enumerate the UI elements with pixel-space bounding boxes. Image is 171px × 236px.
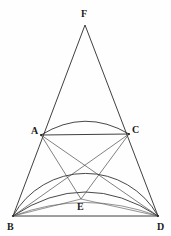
segment-FB — [13, 25, 85, 216]
semicircle-BD-arc — [13, 173, 158, 216]
segment-AD — [41, 135, 158, 216]
point-label-F: F — [81, 9, 87, 19]
vertex-dot-D — [157, 215, 159, 217]
geometry-diagram — [0, 0, 171, 236]
point-label-C: C — [132, 125, 139, 135]
segment-AE — [41, 135, 81, 199]
arc-BD-lower — [13, 203, 158, 217]
segment-CB — [13, 134, 129, 216]
arc-BD-upper — [13, 192, 158, 216]
point-label-E: E — [77, 202, 84, 212]
vertex-dot-A — [40, 134, 42, 136]
segment-ED — [81, 199, 158, 216]
point-label-A: A — [31, 126, 38, 136]
figure-canvas: F A C B D E — [0, 0, 171, 236]
point-label-D: D — [157, 222, 164, 232]
segment-FD — [85, 25, 158, 216]
arc-AC — [41, 121, 129, 135]
segment-AC — [41, 134, 129, 135]
vertex-dot-B — [12, 215, 14, 217]
vertex-dot-C — [128, 133, 130, 135]
segment-CE — [81, 134, 129, 199]
point-label-B: B — [7, 222, 14, 232]
